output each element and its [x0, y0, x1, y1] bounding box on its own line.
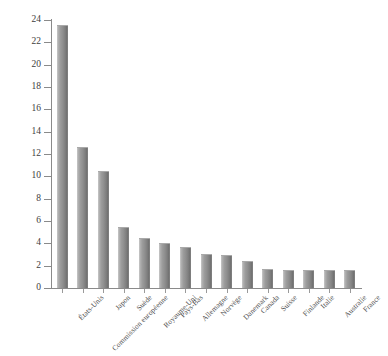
bar: [303, 270, 314, 288]
y-tick-label: 12: [18, 149, 41, 158]
y-tick-mark: [44, 20, 51, 21]
y-tick-mark: [44, 288, 51, 289]
y-tick-mark: [44, 42, 51, 43]
x-tick-mark: [62, 289, 63, 293]
bar: [221, 255, 232, 288]
y-tick-mark: [44, 221, 51, 222]
y-tick-mark: [44, 132, 51, 133]
y-tick-label: 2: [18, 261, 41, 270]
y-tick-mark: [44, 154, 51, 155]
bar: [98, 171, 109, 288]
y-tick-label: 18: [18, 82, 41, 91]
y-tick-mark: [44, 109, 51, 110]
bar: [57, 25, 68, 288]
x-tick-mark: [83, 289, 84, 293]
y-tick-label: 10: [18, 171, 41, 180]
y-tick-mark: [44, 243, 51, 244]
x-tick-mark: [103, 289, 104, 293]
y-tick-label: 4: [18, 238, 41, 247]
x-tick-mark: [185, 289, 186, 293]
y-tick-label: 22: [18, 37, 41, 46]
x-tick-mark: [309, 289, 310, 293]
x-category-label: Japon: [114, 293, 133, 312]
y-tick-mark: [44, 266, 51, 267]
bar: [180, 247, 191, 288]
bars-layer: [52, 20, 360, 288]
bar: [77, 147, 88, 288]
y-tick-mark: [44, 176, 51, 177]
x-tick-mark: [288, 289, 289, 293]
bar: [262, 269, 273, 288]
x-tick-mark: [227, 289, 228, 293]
y-tick-label: 0: [18, 283, 41, 292]
x-category-label: États-Unis: [77, 293, 106, 322]
bar: [201, 254, 212, 289]
x-category-label: Suisse: [278, 293, 298, 313]
bar: [344, 270, 355, 288]
y-tick-label: 16: [18, 104, 41, 113]
y-tick-label: 24: [18, 15, 41, 24]
y-tick-mark: [44, 199, 51, 200]
bar: [283, 270, 294, 288]
y-tick-label: 8: [18, 194, 41, 203]
y-tick-mark: [44, 87, 51, 88]
bar: [159, 243, 170, 288]
x-tick-mark: [247, 289, 248, 293]
bar: [139, 238, 150, 288]
x-tick-mark: [144, 289, 145, 293]
x-tick-mark: [268, 289, 269, 293]
y-tick-label: 14: [18, 127, 41, 136]
y-tick-mark: [44, 65, 51, 66]
bar-chart: 024681012141618202224 États-UnisCommissi…: [0, 0, 388, 356]
y-tick-label: 6: [18, 216, 41, 225]
x-tick-mark: [206, 289, 207, 293]
bar: [242, 261, 253, 288]
bar: [118, 227, 129, 288]
y-tick-label: 20: [18, 60, 41, 69]
x-tick-mark: [165, 289, 166, 293]
bar: [324, 270, 335, 288]
x-tick-mark: [350, 289, 351, 293]
